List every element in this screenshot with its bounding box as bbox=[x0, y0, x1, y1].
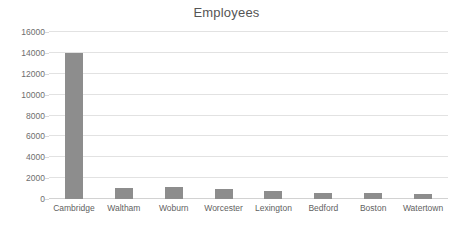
bar-slot bbox=[49, 32, 99, 199]
y-tick-label: 8000 bbox=[0, 111, 45, 120]
y-tick-mark bbox=[45, 199, 49, 200]
y-tick-label: 12000 bbox=[0, 70, 45, 79]
bar-slot bbox=[149, 32, 199, 199]
bar[interactable] bbox=[414, 194, 432, 199]
bar-slot bbox=[99, 32, 149, 199]
bar[interactable] bbox=[264, 191, 282, 199]
bar-slot bbox=[398, 32, 448, 199]
y-tick-label: 4000 bbox=[0, 153, 45, 162]
bar[interactable] bbox=[165, 187, 183, 199]
bar[interactable] bbox=[215, 189, 233, 199]
x-tick-label: Woburn bbox=[159, 203, 189, 213]
bar[interactable] bbox=[115, 188, 133, 199]
bar-slot bbox=[298, 32, 348, 199]
y-axis: 0200040006000800010000120001400016000 bbox=[0, 32, 45, 199]
bar[interactable] bbox=[314, 193, 332, 199]
y-tick-label: 10000 bbox=[0, 90, 45, 99]
chart-title: Employees bbox=[0, 5, 453, 20]
y-tick-label: 0 bbox=[0, 195, 45, 204]
bar-chart: Employees 020004000600080001000012000140… bbox=[0, 0, 453, 230]
y-tick-label: 16000 bbox=[0, 28, 45, 37]
x-tick-label: Boston bbox=[360, 203, 386, 213]
x-tick-label: Watertown bbox=[403, 203, 443, 213]
bar-series bbox=[49, 32, 448, 199]
bar-slot bbox=[249, 32, 299, 199]
x-tick-label: Lexington bbox=[255, 203, 292, 213]
y-tick-label: 2000 bbox=[0, 174, 45, 183]
x-tick-label: Waltham bbox=[107, 203, 140, 213]
bar[interactable] bbox=[65, 53, 83, 199]
y-tick-label: 14000 bbox=[0, 49, 45, 58]
bar[interactable] bbox=[364, 193, 382, 199]
x-tick-label: Bedford bbox=[308, 203, 338, 213]
x-tick-label: Worcester bbox=[204, 203, 243, 213]
x-tick-label: Cambridge bbox=[53, 203, 95, 213]
x-axis: CambridgeWalthamWoburnWorcesterLexington… bbox=[49, 203, 448, 219]
bar-slot bbox=[199, 32, 249, 199]
y-tick-label: 6000 bbox=[0, 132, 45, 141]
bar-slot bbox=[348, 32, 398, 199]
